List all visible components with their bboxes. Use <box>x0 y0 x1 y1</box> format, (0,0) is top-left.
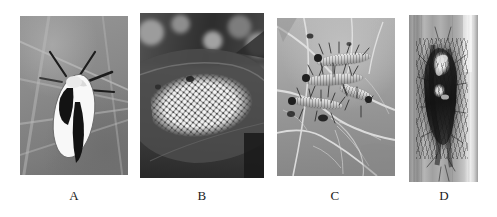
egg-mass-photo <box>140 13 264 178</box>
panel-image-b <box>140 13 264 178</box>
egg-mass-shading <box>140 13 264 178</box>
panel-label-c: C <box>325 189 345 203</box>
moth-on-leaf-photo <box>20 16 128 175</box>
moth-body <box>20 16 128 175</box>
caterpillar-setae <box>277 18 395 176</box>
panel-image-a <box>20 16 128 175</box>
panel-label-b: B <box>192 189 212 203</box>
panel-label-d: D <box>434 189 454 203</box>
panel-label-a: A <box>64 189 84 203</box>
panel-image-d <box>409 15 478 182</box>
cocoon-on-stem-photo <box>409 15 478 182</box>
panel-image-c <box>277 18 395 176</box>
larvae-on-leaf-photo <box>277 18 395 176</box>
cocoon-detail <box>409 15 478 182</box>
figure-plate: A B C D <box>0 0 497 217</box>
